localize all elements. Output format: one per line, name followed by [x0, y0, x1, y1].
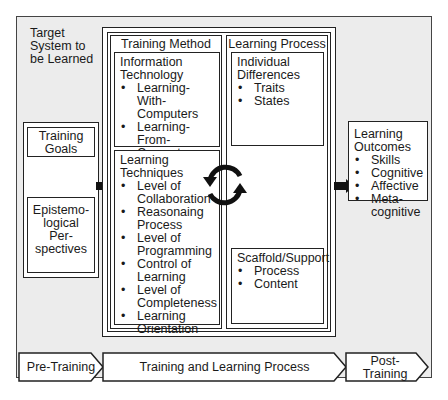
- phase-training-learning: Training and Learning Process: [103, 361, 346, 374]
- phase-chevrons: [0, 0, 448, 400]
- phase-pre-training: Pre-Training: [19, 361, 103, 374]
- phase-post-training: Post-Training: [346, 355, 424, 381]
